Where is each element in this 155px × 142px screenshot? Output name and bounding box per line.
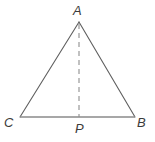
geometry-figure: A C B P: [0, 0, 155, 142]
vertex-label-b: B: [137, 116, 146, 129]
vertex-label-p: P: [75, 122, 84, 135]
triangle-side-CA: [20, 22, 79, 117]
vertex-label-c: C: [4, 116, 13, 129]
vertex-label-a: A: [73, 4, 82, 17]
triangle-side-AB: [79, 22, 135, 117]
